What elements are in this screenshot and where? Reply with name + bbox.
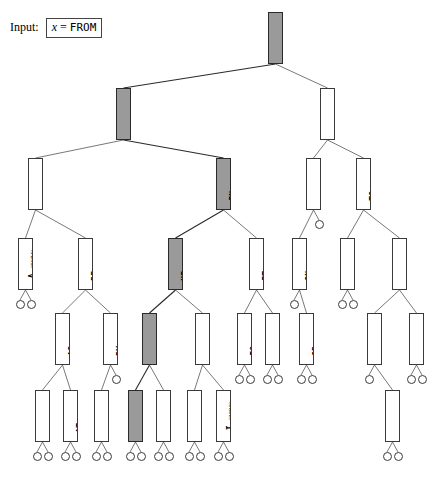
tree-leaf-null-not-left [263,375,272,384]
tree-leaf-null-you-right [418,375,427,384]
tree-leaf-null-have-left [154,452,163,461]
tree-edge-of-for [124,64,276,88]
leaf-edge [273,365,279,375]
leaf-edge [342,290,348,300]
tree-node-her[interactable]: HER(1068) [187,390,202,442]
tree-edge-with-was [375,290,400,313]
node-word: BE [92,271,93,281]
tree-diagram-canvas: Input: x=FROM OF(21020)FOR(1869)THE(1556… [0,0,433,480]
tree-edge-be-as [63,290,86,313]
tree-leaf-null-or-left [297,375,306,384]
tree-node-not[interactable]: NOT(1496) [265,313,280,365]
leaf-edge [387,442,393,452]
tree-edge-with-you [400,290,417,313]
leaf-edge [65,442,71,452]
leaf-edge [393,442,399,452]
node-word: I [227,425,231,430]
leaf-edge [102,442,108,452]
tree-node-you[interactable]: YOU(1336) [409,313,424,365]
leaf-edge [37,442,43,452]
tree-leaf-null-a-left [16,300,25,309]
tree-node-on[interactable]: ON(1155) [292,238,307,290]
node-count: (5739) [370,167,371,186]
tree-leaf-null-or-right [308,375,317,384]
tree-node-of[interactable]: OF(21020) [268,12,283,64]
node-count: (1535) [92,247,93,266]
tree-node-at[interactable]: AT(1053) [63,390,78,442]
tree-leaf-null-but-left [92,452,101,461]
node-count: (2285) [263,247,264,266]
leaf-edge [348,290,354,300]
node-count: (2509) [251,322,252,341]
node-count: (2292) [227,402,231,421]
node-count: (4313) [230,167,231,186]
tree-leaf-null-you-left [407,375,416,384]
node-word: OR [313,346,314,356]
leaf-edge [111,365,117,375]
node-word: TO [370,191,371,201]
tree-node-it[interactable]: IT(2285) [249,238,264,290]
leaf-edge [195,442,201,452]
tree-node-he[interactable]: HE(1727) [168,238,183,290]
node-count: (5074) [29,250,33,269]
tree-edge-had-have [150,365,164,390]
tree-node-with[interactable]: WITH(4849) [392,238,407,290]
tree-leaf-null-which-left [383,452,392,461]
tree-node-the[interactable]: THE(15568) [320,88,335,140]
tree-node-is[interactable]: IS(2509) [237,313,252,365]
tree-node-this[interactable]: THIS(1021) [340,238,355,290]
tree-node-had[interactable]: HAD(1062) [142,313,157,365]
tree-leaf-null-from-left [126,452,135,461]
tree-edge-his-i [203,365,224,390]
tree-node-which[interactable]: WHICH(1291) [385,390,400,442]
tree-edge-of-the [276,64,328,88]
tree-leaf-null-that-right [315,220,324,229]
tree-node-his[interactable]: HIS(1732) [195,313,210,365]
tree-leaf-null-are-left [33,452,42,461]
tree-node-are[interactable]: ARE(1222) [35,390,50,442]
node-word: AT [77,423,78,433]
tree-edge-was-which [375,365,393,390]
node-word: IS [251,346,252,356]
tree-leaf-null-on-left [290,300,299,309]
tree-edge-as-are [43,365,63,390]
tree-leaf-null-are-right [44,452,53,461]
tree-leaf-null-but-right [103,452,112,461]
leaf-edge [130,442,136,452]
tree-node-a[interactable]: A(5074) [18,238,33,290]
tree-node-i[interactable]: I(2292) [216,390,231,442]
tree-edge-as-at [63,365,71,390]
tree-edge-it-is [245,290,257,313]
tree-leaf-null-her-left [185,452,194,461]
leaf-edge [96,442,102,452]
tree-leaf-null-which-right [394,452,403,461]
tree-node-or[interactable]: OR(1011) [299,313,314,365]
tree-node-but[interactable]: BUT(1379) [94,390,109,442]
tree-edge-to-this [348,210,364,238]
tree-node-by[interactable]: BY(1392) [103,313,118,365]
tree-node-have[interactable]: HAVE(1344) [156,390,171,442]
leaf-edge [158,442,164,452]
tree-leaf-null-this-left [338,300,347,309]
tree-edge-in-it [224,210,257,238]
leaf-edge [71,442,77,452]
tree-node-in[interactable]: IN(4313) [216,158,231,210]
tree-node-to[interactable]: TO(5739) [356,158,371,210]
tree-node-from[interactable]: FROM(1030) [128,390,143,442]
tree-node-as[interactable]: AS(1853) [55,313,70,365]
tree-node-that[interactable]: THAT(3917) [306,158,321,210]
tree-edge-his-her [195,365,203,390]
leaf-edge [218,442,224,452]
tree-leaf-null-is-right [246,375,255,384]
tree-edge-he-had [150,290,176,313]
node-count: (1727) [182,247,183,266]
tree-edge-the-that [314,140,328,158]
tree-node-and[interactable]: AND(7638) [28,158,43,210]
tree-leaf-null-i-left [214,452,223,461]
tree-leaf-null-at-right [72,452,81,461]
node-word: ON [306,271,307,281]
leaf-edge [294,290,300,300]
tree-node-for[interactable]: FOR(1869) [116,88,131,140]
tree-node-be[interactable]: BE(1535) [78,238,93,290]
tree-node-was[interactable]: WAS(1761) [367,313,382,365]
